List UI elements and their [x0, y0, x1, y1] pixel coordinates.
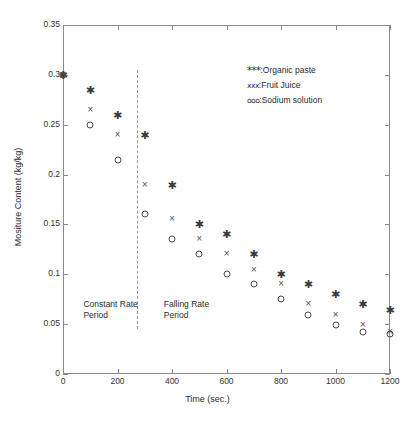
x-axis-tick-label: 800 — [274, 377, 288, 386]
x-axis-tick-top — [390, 25, 391, 30]
data-point-circle — [87, 121, 94, 128]
data-point-cross: × — [141, 181, 148, 189]
legend-label-organic-paste: :Organic paste — [261, 65, 316, 75]
data-point-cross: × — [169, 215, 176, 223]
data-point-circle — [359, 329, 366, 336]
x-axis-tick — [227, 369, 228, 374]
plot-area — [63, 25, 390, 374]
data-point-cross: × — [223, 250, 230, 258]
legend-marker-cross-icon: xxx — [247, 78, 259, 93]
y-axis-tick — [63, 374, 68, 375]
data-point-star: ✱ — [140, 129, 149, 140]
y-axis-tick-label: 0.2 — [48, 170, 60, 179]
data-point-star: ✱ — [113, 109, 122, 120]
y-axis-tick — [63, 324, 68, 325]
data-point-star: ✱ — [358, 299, 367, 310]
legend-item-organic-paste: ***:Organic paste — [247, 62, 322, 78]
y-axis-tick-right — [385, 125, 390, 126]
y-axis-tick-label: 0.25 — [43, 120, 60, 129]
x-axis-tick-label: 200 — [110, 377, 124, 386]
x-axis-tick-label: 1200 — [381, 377, 400, 386]
legend-marker-circle-icon: ooo — [247, 93, 259, 108]
data-point-cross: × — [332, 311, 339, 319]
y-axis-tick-right — [385, 224, 390, 225]
data-point-cross: × — [278, 280, 285, 288]
data-point-circle — [387, 331, 394, 338]
data-point-circle — [114, 156, 121, 163]
data-point-circle — [169, 236, 176, 243]
data-point-cross: × — [305, 300, 312, 308]
data-point-cross: × — [114, 131, 121, 139]
x-axis-tick-top — [118, 25, 119, 30]
data-point-star: ✱ — [385, 305, 394, 316]
legend-item-fruit-juice: xxx:Fruit Juice — [247, 78, 322, 93]
chart-legend: ***:Organic paste xxx:Fruit Juice ooo:So… — [247, 62, 322, 108]
legend-item-sodium-solution: ooo:Sodium solution — [247, 93, 322, 108]
x-axis-tick — [118, 369, 119, 374]
y-axis-tick-right — [385, 374, 390, 375]
data-point-star: ✱ — [222, 229, 231, 240]
x-axis-tick-top — [172, 25, 173, 30]
plot-annotation-constant-rate: Constant Rate Period — [83, 299, 137, 321]
data-point-circle — [305, 312, 312, 319]
x-axis-tick — [336, 369, 337, 374]
x-axis-tick-top — [336, 25, 337, 30]
y-axis-title: Mositure Content (kg/kg) — [13, 117, 23, 277]
y-axis-tick-label: 0.05 — [43, 319, 60, 328]
legend-label-sodium-solution: :Sodium solution — [259, 95, 322, 105]
y-axis-tick-label: 0 — [55, 369, 60, 378]
data-point-star: ✱ — [195, 219, 204, 230]
plot-annotation-falling-rate: Falling Rate Period — [164, 299, 209, 321]
legend-label-fruit-juice: :Fruit Juice — [259, 80, 301, 90]
legend-marker-star-icon: *** — [247, 63, 261, 78]
y-axis-tick — [63, 175, 68, 176]
data-point-star: ✱ — [331, 289, 340, 300]
x-axis-tick-top — [227, 25, 228, 30]
data-point-circle — [141, 211, 148, 218]
data-point-circle — [196, 251, 203, 258]
period-divider — [137, 70, 138, 329]
data-point-circle — [278, 296, 285, 303]
x-axis-title: Time (sec.) — [0, 394, 415, 404]
y-axis-tick-label: 0.15 — [43, 219, 60, 228]
y-axis-tick-right — [385, 324, 390, 325]
x-axis-tick — [63, 369, 64, 374]
y-axis-tick-right — [385, 274, 390, 275]
data-point-cross: × — [196, 235, 203, 243]
data-point-circle — [60, 71, 67, 78]
data-point-circle — [250, 281, 257, 288]
y-axis-tick — [63, 125, 68, 126]
x-axis-tick-label: 400 — [165, 377, 179, 386]
x-axis-tick-top — [63, 25, 64, 30]
y-axis-tick-label: 0.1 — [48, 269, 60, 278]
chart-figure: 00.050.10.150.20.250.30.3502004006008001… — [0, 0, 415, 425]
data-point-star: ✱ — [86, 84, 95, 95]
data-point-star: ✱ — [276, 269, 285, 280]
y-axis-tick-right — [385, 175, 390, 176]
data-point-star: ✱ — [304, 279, 313, 290]
data-point-cross: × — [87, 106, 94, 114]
y-axis-tick — [63, 274, 68, 275]
data-point-circle — [332, 322, 339, 329]
x-axis-tick — [281, 369, 282, 374]
data-point-cross: × — [250, 266, 257, 274]
y-axis-tick-right — [385, 75, 390, 76]
data-point-star: ✱ — [249, 249, 258, 260]
y-axis-tick-label: 0.35 — [43, 20, 60, 29]
data-point-circle — [223, 271, 230, 278]
x-axis-tick — [390, 369, 391, 374]
x-axis-tick-label: 0 — [61, 377, 66, 386]
x-axis-tick-label: 600 — [219, 377, 233, 386]
y-axis-tick — [63, 224, 68, 225]
data-point-star: ✱ — [167, 179, 176, 190]
x-axis-tick — [172, 369, 173, 374]
x-axis-tick-top — [281, 25, 282, 30]
x-axis-tick-label: 1000 — [326, 377, 345, 386]
